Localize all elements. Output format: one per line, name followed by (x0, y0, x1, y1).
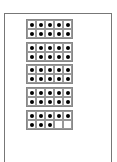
dot-icon (39, 23, 43, 27)
ten-frame-cell (45, 74, 54, 83)
ten-frame-cell (54, 88, 63, 97)
ten-frame-cell (54, 65, 63, 74)
ten-frame (26, 87, 73, 107)
ten-frame-cell (54, 52, 63, 61)
ten-frame-cell (63, 74, 72, 83)
dot-icon (48, 91, 52, 95)
worksheet-page (4, 13, 112, 162)
ten-frame-cell (36, 29, 45, 38)
ten-frame-cell (45, 111, 54, 120)
ten-frame-cell (27, 74, 36, 83)
ten-frame-cell (36, 74, 45, 83)
ten-frame-cell (63, 43, 72, 52)
dot-icon (66, 32, 70, 36)
ten-frame-cell (36, 65, 45, 74)
dot-icon (48, 32, 52, 36)
ten-frame-cell (63, 97, 72, 106)
dot-icon (30, 68, 34, 72)
ten-frame (26, 64, 73, 84)
ten-frame-cell (54, 43, 63, 52)
dot-icon (66, 100, 70, 104)
dot-icon (57, 77, 61, 81)
dot-icon (39, 77, 43, 81)
dot-icon (39, 123, 43, 127)
dot-icon (30, 123, 34, 127)
ten-frame-cell (27, 120, 36, 129)
ten-frame-cell (45, 29, 54, 38)
dot-icon (30, 91, 34, 95)
dot-icon (39, 32, 43, 36)
ten-frame-cell (45, 43, 54, 52)
dot-icon (30, 23, 34, 27)
dot-icon (66, 77, 70, 81)
dot-icon (30, 32, 34, 36)
dot-icon (48, 46, 52, 50)
ten-frame-cell (45, 20, 54, 29)
ten-frame-cell (36, 97, 45, 106)
dot-icon (30, 114, 34, 118)
ten-frame-cell (63, 111, 72, 120)
dot-icon (48, 68, 52, 72)
ten-frame-cell (27, 29, 36, 38)
ten-frame-cell (54, 29, 63, 38)
dot-icon (48, 55, 52, 59)
dot-icon (66, 46, 70, 50)
ten-frame-cell (36, 111, 45, 120)
ten-frame-cell (27, 20, 36, 29)
dot-icon (57, 68, 61, 72)
ten-frame-cell (63, 88, 72, 97)
dot-icon (39, 55, 43, 59)
ten-frame-cell (36, 43, 45, 52)
ten-frame-cell (54, 74, 63, 83)
ten-frame-cell (54, 20, 63, 29)
dot-icon (57, 23, 61, 27)
dot-icon (57, 32, 61, 36)
ten-frame-cell (63, 52, 72, 61)
ten-frame-cell (54, 111, 63, 120)
dot-icon (39, 114, 43, 118)
dot-icon (48, 114, 52, 118)
ten-frame-cell (36, 88, 45, 97)
dot-icon (30, 46, 34, 50)
ten-frame-cell (45, 88, 54, 97)
dot-icon (48, 77, 52, 81)
ten-frame-cell (45, 52, 54, 61)
dot-icon (39, 68, 43, 72)
ten-frame (26, 42, 73, 62)
ten-frame-cell (63, 120, 72, 129)
ten-frame-cell (27, 65, 36, 74)
dot-icon (66, 114, 70, 118)
ten-frame-cell (63, 65, 72, 74)
dot-icon (30, 55, 34, 59)
dot-icon (57, 55, 61, 59)
dot-icon (30, 100, 34, 104)
ten-frame-cell (63, 29, 72, 38)
ten-frame-cell (54, 97, 63, 106)
ten-frame-cell (45, 65, 54, 74)
dot-icon (30, 77, 34, 81)
dot-icon (66, 23, 70, 27)
ten-frame (26, 110, 73, 130)
dot-icon (39, 100, 43, 104)
dot-icon (66, 91, 70, 95)
ten-frame-cell (36, 20, 45, 29)
ten-frame-cell (45, 120, 54, 129)
dot-icon (48, 100, 52, 104)
dot-icon (57, 114, 61, 118)
ten-frame-cell (27, 88, 36, 97)
ten-frame-cell (54, 120, 63, 129)
dot-icon (57, 100, 61, 104)
dot-icon (57, 46, 61, 50)
ten-frame-cell (63, 20, 72, 29)
dot-icon (66, 68, 70, 72)
dot-icon (48, 23, 52, 27)
dot-icon (48, 123, 52, 127)
ten-frame-cell (36, 52, 45, 61)
ten-frame-cell (27, 52, 36, 61)
dot-icon (39, 46, 43, 50)
dot-icon (57, 91, 61, 95)
ten-frame-cell (27, 97, 36, 106)
ten-frame (26, 19, 73, 39)
ten-frame-cell (27, 43, 36, 52)
ten-frame-cell (27, 111, 36, 120)
